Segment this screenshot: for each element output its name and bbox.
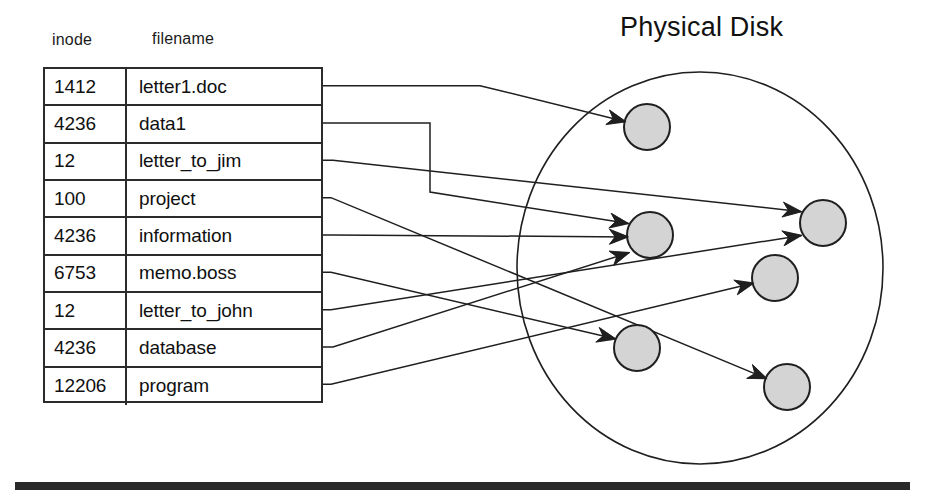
disk-block-f xyxy=(764,364,810,410)
table-row: 4236 data1 xyxy=(45,106,321,143)
connector-arrowhead xyxy=(609,229,628,244)
connector-8 xyxy=(323,251,630,347)
disk-boundary-ellipse xyxy=(517,72,883,464)
connector-line xyxy=(323,235,802,309)
cell-inode: 6753 xyxy=(45,256,127,291)
cell-filename: letter1.doc xyxy=(127,69,321,104)
connector-arrowhead xyxy=(734,280,754,295)
table-row: 4236 information xyxy=(45,218,321,255)
table-row: 100 project xyxy=(45,181,321,218)
cell-filename: program xyxy=(127,368,321,405)
connector-9 xyxy=(323,280,754,384)
table-row: 1412 letter1.doc xyxy=(45,69,321,106)
connector-line xyxy=(323,123,629,224)
disk-block-b xyxy=(627,212,673,258)
connector-2 xyxy=(323,123,629,228)
connector-line xyxy=(323,235,629,237)
cell-filename: letter_to_jim xyxy=(127,144,321,179)
cell-filename: project xyxy=(127,181,321,216)
connector-arrowhead xyxy=(782,202,802,217)
bottom-divider xyxy=(15,482,910,490)
column-header-inode: inode xyxy=(52,31,92,49)
disk-block-d xyxy=(752,255,798,301)
connector-1 xyxy=(323,86,626,125)
cell-inode: 4236 xyxy=(45,106,127,141)
cell-filename: database xyxy=(127,330,321,365)
connector-5 xyxy=(323,229,629,244)
connector-line xyxy=(323,283,754,384)
table-row: 4236 database xyxy=(45,330,321,367)
connector-line xyxy=(323,272,616,339)
arrowhead-overlay xyxy=(609,251,629,265)
connector-line xyxy=(323,86,626,122)
cell-filename: memo.boss xyxy=(127,256,321,291)
arrowhead-overlay xyxy=(609,229,628,244)
arrowhead-overlay xyxy=(782,231,802,246)
connector-arrowhead xyxy=(609,251,629,265)
disk-block-a xyxy=(624,104,670,150)
cell-filename: letter_to_john xyxy=(127,293,321,328)
directory-table: 1412 letter1.doc 4236 data1 12 letter_to… xyxy=(43,67,323,403)
cell-inode: 12206 xyxy=(45,368,127,405)
cell-inode: 12 xyxy=(45,293,127,328)
arrowhead-overlay xyxy=(596,327,616,342)
table-row: 12 letter_to_jim xyxy=(45,144,321,181)
cell-inode: 4236 xyxy=(45,330,127,365)
arrowhead-overlay xyxy=(609,213,629,228)
connector-line xyxy=(323,198,767,379)
cell-inode: 100 xyxy=(45,181,127,216)
connector-3 xyxy=(323,160,802,217)
disk-block-e xyxy=(614,325,660,371)
inode-to-disk-diagram: inode filename 1412 letter1.doc 4236 dat… xyxy=(0,0,926,497)
disk-block-c xyxy=(800,200,846,246)
table-row: 12206 program xyxy=(45,368,321,405)
column-header-filename: filename xyxy=(152,30,214,48)
connector-arrowhead xyxy=(782,231,802,246)
connector-line xyxy=(323,160,802,211)
connector-7 xyxy=(323,231,802,310)
table-row: 6753 memo.boss xyxy=(45,256,321,293)
cell-inode: 4236 xyxy=(45,218,127,253)
connector-arrowhead xyxy=(606,110,626,125)
cell-inode: 12 xyxy=(45,144,127,179)
connector-4 xyxy=(323,198,767,379)
arrowhead-overlay xyxy=(782,202,802,217)
arrowhead-overlay xyxy=(606,110,626,125)
connector-line xyxy=(323,253,630,347)
table-row: 12 letter_to_john xyxy=(45,293,321,330)
connector-arrowhead xyxy=(609,213,629,228)
cell-filename: information xyxy=(127,218,321,253)
connector-6 xyxy=(323,272,616,342)
cell-inode: 1412 xyxy=(45,69,127,104)
arrowhead-overlay xyxy=(747,365,767,379)
connector-arrowhead xyxy=(596,327,616,342)
connector-arrowhead xyxy=(747,365,767,379)
arrowhead-overlay xyxy=(734,280,754,295)
cell-filename: data1 xyxy=(127,106,321,141)
physical-disk-title: Physical Disk xyxy=(620,12,783,43)
